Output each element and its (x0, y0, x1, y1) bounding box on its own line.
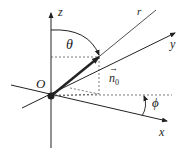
spherical-coordinates-diagram: z r y θ O → n0 ϕ x (0, 0, 186, 153)
x-axis (11, 85, 167, 121)
dashed-projection-2 (70, 88, 99, 94)
r-label: r (137, 6, 141, 17)
unit-vector-arrow: → (109, 64, 118, 73)
y-axis-label: y (170, 38, 175, 50)
theta-label: θ (66, 38, 73, 52)
phi-label: ϕ (152, 96, 159, 109)
origin-dot (48, 93, 55, 100)
unit-vector-subscript: 0 (115, 78, 119, 87)
origin-label: O (36, 77, 45, 90)
unit-vector-label: → n0 (109, 72, 119, 87)
unit-vector-n0 (51, 57, 99, 96)
phi-arc (142, 96, 146, 116)
x-axis-label: x (159, 126, 164, 138)
theta-arc (51, 30, 99, 55)
z-axis-label: z (58, 6, 63, 18)
